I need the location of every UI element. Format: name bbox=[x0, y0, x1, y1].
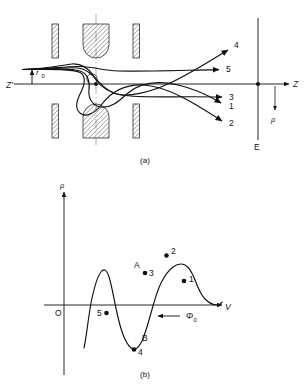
crossover-point bbox=[94, 82, 98, 86]
point-label-3: 3 bbox=[149, 268, 154, 278]
point-label-2: 2 bbox=[171, 246, 176, 256]
screen-axis-point bbox=[256, 82, 260, 86]
data-point-4 bbox=[132, 347, 137, 352]
trajectory-label-2: 2 bbox=[229, 118, 234, 128]
electrode-lower-center bbox=[83, 104, 109, 138]
v-axis-label: V bbox=[225, 302, 232, 312]
caption-b: (b) bbox=[140, 370, 150, 379]
screen-label-e: E bbox=[254, 142, 260, 152]
point-label-a: A bbox=[134, 260, 140, 270]
electrode-upper-left bbox=[52, 24, 59, 58]
figure-container: Z' Z r 0 E ρ 4 5 3 1 2 (a) bbox=[0, 0, 307, 390]
rho-label-a: ρ bbox=[270, 115, 276, 124]
trajectory-label-5: 5 bbox=[226, 64, 231, 74]
phi0-label: Φ bbox=[186, 311, 193, 321]
trajectory-label-1: 1 bbox=[229, 101, 234, 111]
data-point-3 bbox=[143, 271, 148, 276]
point-label-5: 5 bbox=[97, 308, 102, 318]
caption-a: (a) bbox=[140, 156, 150, 165]
panel-a: Z' Z r 0 E ρ 4 5 3 1 2 (a) bbox=[5, 14, 299, 165]
electrode-upper-center bbox=[83, 24, 109, 58]
z-prime-label: Z' bbox=[5, 80, 13, 90]
panel-b: ρ V O 5 4 B A 3 2 1 Φ 0 (b) bbox=[44, 181, 232, 379]
origin-label: O bbox=[55, 308, 62, 318]
point-label-b: B bbox=[142, 333, 148, 343]
point-label-4: 4 bbox=[138, 347, 143, 357]
electrode-lower-left bbox=[52, 104, 59, 138]
rho-axis-label: ρ bbox=[59, 181, 65, 190]
data-point-1 bbox=[182, 279, 187, 284]
electrode-lower-right bbox=[133, 104, 140, 138]
phi0-label-sub: 0 bbox=[194, 317, 197, 323]
data-point-2 bbox=[164, 253, 169, 258]
trajectory-label-4: 4 bbox=[234, 40, 239, 50]
point-label-1: 1 bbox=[189, 274, 194, 284]
electrode-upper-right bbox=[133, 24, 140, 58]
data-point-5 bbox=[104, 311, 109, 316]
z-label: Z bbox=[292, 79, 299, 89]
figure-svg: Z' Z r 0 E ρ 4 5 3 1 2 (a) bbox=[0, 0, 307, 390]
r0-label-sub: 0 bbox=[42, 73, 45, 79]
